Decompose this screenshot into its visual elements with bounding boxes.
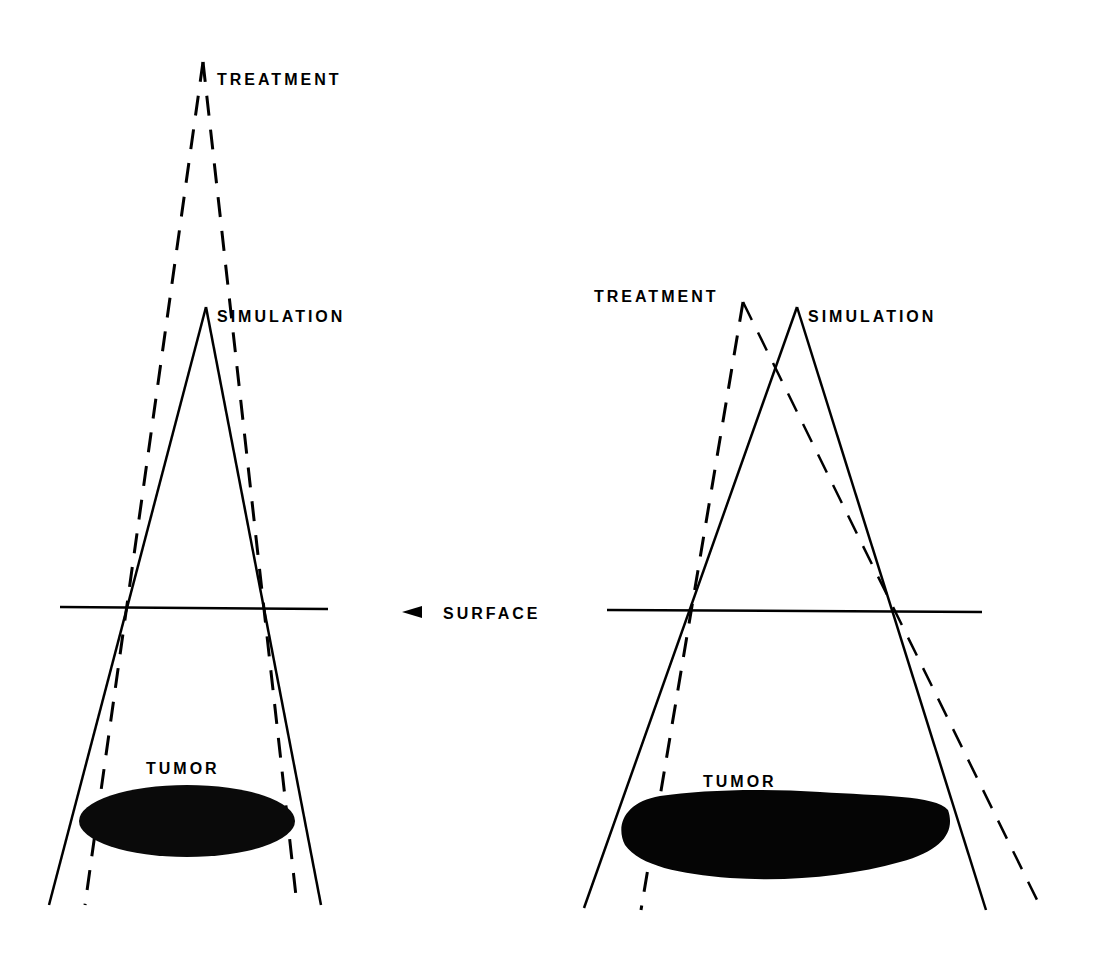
left-treatment-beam-left-edge (85, 62, 203, 905)
right-tumor (621, 790, 950, 879)
right-treatment-label: TREATMENT (594, 288, 718, 305)
beam-divergence-diagram: TREATMENT SIMULATION TUMOR SURFACE TREAT… (0, 0, 1098, 959)
left-surface-line (60, 607, 328, 609)
left-simulation-label: SIMULATION (217, 308, 345, 325)
surface-annotation: SURFACE (402, 605, 540, 622)
left-tumor (79, 785, 295, 857)
right-simulation-label: SIMULATION (808, 308, 936, 325)
left-panel: TREATMENT SIMULATION TUMOR (49, 62, 345, 905)
right-tumor-label: TUMOR (703, 773, 777, 790)
right-surface-line (607, 610, 982, 612)
left-treatment-beam-right-edge (203, 62, 297, 905)
surface-label: SURFACE (443, 605, 540, 622)
surface-arrow-icon (402, 606, 422, 618)
left-treatment-label: TREATMENT (217, 71, 341, 88)
right-panel: TREATMENT SIMULATION TUMOR (584, 288, 1042, 910)
left-tumor-label: TUMOR (146, 760, 220, 777)
